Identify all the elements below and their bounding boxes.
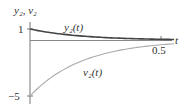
x-axis-label: t (175, 34, 179, 46)
y-tick-label-1: 1 (18, 23, 24, 35)
chart: y₂, v₂ t 1 −5 0.5 y₂(t) v₂(t) (0, 0, 185, 108)
curve-label-v2: v₂(t) (83, 66, 102, 79)
curve-label-y2: y₂(t) (63, 21, 83, 34)
x-tick-label-0.5: 0.5 (152, 44, 166, 56)
y-tick-label-neg5: −5 (8, 90, 20, 102)
y-axis-label: y₂, v₂ (13, 4, 37, 16)
curve-y2 (30, 29, 174, 39)
